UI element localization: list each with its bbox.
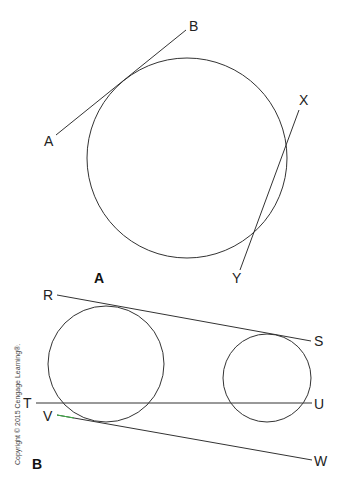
point-label-v: V xyxy=(43,408,53,424)
point-label-t: T xyxy=(23,395,32,411)
panel-a: A B X Y A xyxy=(44,18,309,286)
circle-a xyxy=(87,58,287,258)
point-label-a: A xyxy=(44,133,54,149)
copyright-text: Copyright © 2015 Cengage Learning®. xyxy=(14,344,22,465)
point-label-y: Y xyxy=(232,270,242,286)
small-circle xyxy=(223,334,311,422)
panel-label-b: B xyxy=(32,456,42,472)
panel-b: R S T U V W B xyxy=(23,287,328,472)
point-label-u: U xyxy=(314,396,324,412)
point-label-r: R xyxy=(43,287,53,303)
line-xy xyxy=(240,110,299,270)
point-label-b: B xyxy=(189,18,198,34)
panel-label-a: A xyxy=(94,270,104,286)
large-circle xyxy=(48,306,164,422)
point-label-x: X xyxy=(299,92,309,108)
line-rs xyxy=(57,295,311,341)
geometry-figure: A B X Y A R S T U V W B Copyright © 2015… xyxy=(0,0,344,483)
point-label-w: W xyxy=(314,453,328,469)
line-vw-green-segment xyxy=(57,415,74,418)
point-label-s: S xyxy=(314,333,323,349)
line-ab xyxy=(56,30,186,135)
